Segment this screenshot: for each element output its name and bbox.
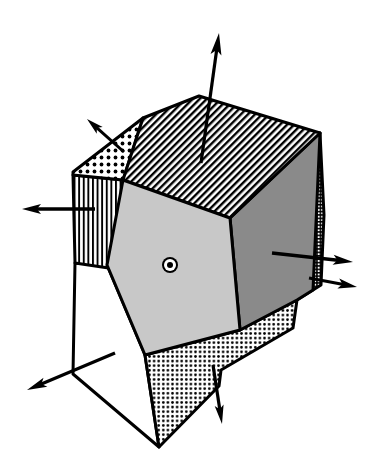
faces-group [73,96,324,447]
crystal-figure-root [0,0,374,476]
crystal-diagram [0,0,374,476]
symbols-group [162,257,178,273]
out-of-page-vector-symbol [162,257,178,273]
out-of-page-center-dot [167,262,173,268]
